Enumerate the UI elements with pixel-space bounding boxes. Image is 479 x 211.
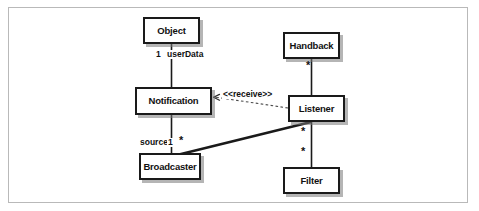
connector-listener-notification-receive xyxy=(218,98,288,109)
class-box-notification[interactable]: Notification xyxy=(135,87,212,115)
class-name-broadcaster: Broadcaster xyxy=(143,162,196,172)
multiplicity-broadcaster-listener: * xyxy=(179,135,183,146)
class-name-object: Object xyxy=(157,26,185,36)
class-box-filter[interactable]: Filter xyxy=(283,167,340,194)
role-label-source: source xyxy=(139,138,169,147)
multiplicity-broadcaster-end: 1 xyxy=(167,138,174,147)
class-box-broadcaster[interactable]: Broadcaster xyxy=(139,153,201,180)
multiplicity-handback-listener: * xyxy=(306,60,310,71)
role-label-userdata: userData xyxy=(166,50,204,59)
multiplicity-object-end: 1 xyxy=(155,50,162,59)
class-name-notification: Notification xyxy=(149,96,199,106)
stereotype-receive-label: <<receive>> xyxy=(222,90,273,99)
multiplicity-listener-filter: * xyxy=(301,146,305,157)
diagram-connectors-canvas xyxy=(0,0,479,211)
connector-broadcaster-listener xyxy=(177,122,311,155)
class-name-listener: Listener xyxy=(299,104,334,114)
class-box-handback[interactable]: Handback xyxy=(283,32,340,59)
multiplicity-listener-broadcaster: * xyxy=(301,126,305,137)
class-box-object[interactable]: Object xyxy=(143,17,200,44)
class-name-filter: Filter xyxy=(300,176,322,186)
class-box-listener[interactable]: Listener xyxy=(288,95,345,122)
uml-class-diagram-figure: Object Notification Broadcaster Handback… xyxy=(0,0,479,211)
class-name-handback: Handback xyxy=(290,41,334,51)
